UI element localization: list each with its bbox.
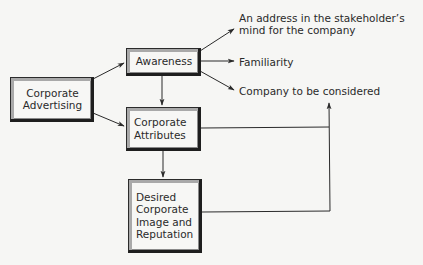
node-label: Advertising: [23, 99, 82, 112]
node-corporate-advertising: Corporate Advertising: [10, 77, 94, 122]
outcome-company-considered: Company to be considered: [239, 85, 380, 97]
outcome-address: An address in the stakeholder’s mind for…: [239, 12, 405, 36]
outcome-label: mind for the company: [239, 24, 405, 36]
outcome-label: Company to be considered: [239, 85, 380, 97]
outcome-familiarity: Familiarity: [239, 56, 294, 68]
edge-awareness-considered: [200, 71, 234, 90]
outcome-label: An address in the stakeholder’s: [239, 12, 405, 24]
node-desired-image-reputation: Desired Corporate Image and Reputation: [128, 179, 202, 253]
node-label: Image and: [136, 216, 195, 229]
node-awareness: Awareness: [126, 48, 201, 76]
node-label: Reputation: [136, 228, 195, 241]
node-label: Corporate: [136, 203, 195, 216]
edge-advertising-attributes: [93, 113, 124, 126]
edge-desired-considered: [202, 103, 330, 212]
node-label: Awareness: [136, 55, 192, 68]
outcome-label: Familiarity: [239, 56, 294, 68]
connector-layer: [0, 0, 423, 265]
edge-advertising-awareness: [93, 63, 124, 79]
node-label: Attributes: [134, 129, 194, 142]
node-label: Corporate: [26, 87, 79, 100]
node-corporate-attributes: Corporate Attributes: [126, 107, 201, 151]
node-label: Desired: [136, 191, 195, 204]
node-label: Corporate: [134, 116, 194, 129]
edge-attributes-considered: [201, 127, 329, 128]
edge-awareness-address: [200, 29, 234, 51]
